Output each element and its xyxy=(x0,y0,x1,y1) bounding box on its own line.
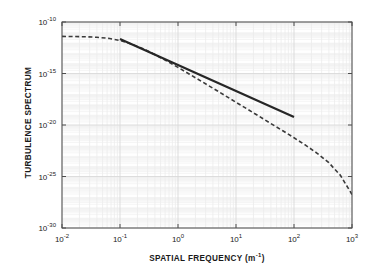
x-tick-label: 103 xyxy=(335,233,369,244)
x-axis-title: SPATIAL FREQUENCY (m-1) xyxy=(62,252,352,263)
x-tick-label: 102 xyxy=(277,233,311,244)
x-tick-label: 100 xyxy=(161,233,195,244)
x-tick-label: 10-2 xyxy=(45,233,79,244)
x-axis-title-text: SPATIAL FREQUENCY (m xyxy=(149,254,255,263)
x-axis-title-tail: ) xyxy=(262,254,265,263)
y-tick-label: 10-10 xyxy=(22,16,56,27)
x-tick-label: 10-1 xyxy=(103,233,137,244)
y-tick-label: 10-30 xyxy=(22,222,56,233)
x-tick-label: 101 xyxy=(219,233,253,244)
y-axis-title: TURBULENCE SPECTRUM xyxy=(24,43,33,203)
turbulence-spectrum-figure: 10-1010-1510-2010-2510-30 10-210-1100101… xyxy=(0,0,378,276)
